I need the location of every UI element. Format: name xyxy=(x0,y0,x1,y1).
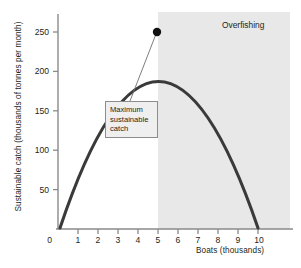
x-tick-label-3: 3 xyxy=(116,235,121,245)
y-tick-label-200: 200 xyxy=(35,66,49,76)
x-tick-label-5: 5 xyxy=(156,235,161,245)
y-tick-label-0: 0 xyxy=(47,235,52,245)
x-tick-label-1: 1 xyxy=(76,235,81,245)
x-tick-label-2: 2 xyxy=(96,235,101,245)
x-tick-label-4: 4 xyxy=(136,235,141,245)
y-axis-ticks xyxy=(53,32,58,190)
maximum-sustainable-catch-marker xyxy=(153,28,161,36)
overfishing-region-label: Overfishing xyxy=(222,20,264,30)
callout-leader-line xyxy=(130,34,156,101)
x-tick-label-7: 7 xyxy=(196,235,201,245)
x-tick-label-10: 10 xyxy=(254,235,264,245)
x-tick-label-6: 6 xyxy=(176,235,181,245)
y-tick-label-250: 250 xyxy=(35,27,49,37)
y-tick-label-150: 150 xyxy=(35,106,49,116)
y-tick-label-50: 50 xyxy=(39,185,49,195)
callout-line-3: catch xyxy=(110,124,154,134)
y-axis-title: Sustainable catch (thousands of tonnes p… xyxy=(14,2,23,232)
x-axis-title: Boats (thousands) xyxy=(196,246,264,255)
max-sustainable-catch-callout: Maximum sustainable catch xyxy=(105,101,158,138)
x-tick-label-8: 8 xyxy=(216,235,221,245)
overfishing-shaded-region xyxy=(158,12,290,229)
callout-line-1: Maximum xyxy=(110,105,154,115)
callout-line-2: sustainable xyxy=(110,115,154,125)
x-tick-label-9: 9 xyxy=(236,235,241,245)
x-axis-ticks xyxy=(78,229,258,234)
fishery-sustainable-catch-chart: 250 200 150 100 50 0 1 2 3 4 5 6 7 8 9 1… xyxy=(0,0,301,268)
y-tick-label-100: 100 xyxy=(35,145,49,155)
